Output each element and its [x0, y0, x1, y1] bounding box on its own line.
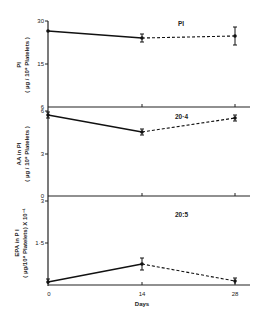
panel-epa-ylabel-2: ( µg/10⁹ Platelets) X 10⁻¹	[22, 208, 28, 277]
panel-pi-dashed-line	[142, 36, 235, 38]
panel-aa-ytick-top: 6	[41, 108, 45, 114]
panel-pi-title: PI	[178, 20, 184, 27]
panel-pi-ytick-mid: 15	[37, 61, 44, 67]
panel-aa: 6 3 0 20·4 AA in PI ( µg / 10⁹ Platelets…	[16, 108, 250, 199]
panel-epa-title: 20:5	[175, 211, 188, 218]
panel-aa-ytick-mid: 3	[41, 151, 45, 157]
x-axis-label: Days	[135, 301, 150, 307]
x-tick-14: 14	[139, 291, 146, 297]
panel-aa-solid-line	[48, 115, 142, 132]
panel-aa-dashed-line	[142, 118, 235, 132]
panel-epa-ytick-bot: 0	[47, 291, 51, 297]
panel-pi-ytick-top: 30	[37, 18, 44, 24]
panel-aa-ylabel-1: AA in PI	[16, 142, 22, 165]
panel-epa-solid-line	[48, 264, 142, 282]
panel-epa-ytick-mid: 1·5	[35, 240, 44, 246]
panel-pi-ylabel-1: PI	[16, 62, 22, 68]
panel-epa-dashed-line	[142, 264, 235, 281]
panel-epa-error-bars	[46, 258, 237, 284]
panel-epa-ylabel-1: EPA in P I	[14, 229, 20, 257]
panel-pi-solid-line	[48, 31, 142, 38]
panel-epa: 3 1·5 0 20:5 EPA in P I ( µg/10⁹ Platele…	[14, 198, 250, 307]
chart-figure: 30 15 6 PI PI ( µg / 10⁹ Platelets ) 6 3…	[0, 0, 264, 324]
panel-epa-ytick-top: 3	[41, 198, 45, 204]
panel-pi: 30 15 6 PI PI ( µg / 10⁹ Platelets )	[16, 18, 250, 110]
panel-aa-title: 20·4	[175, 113, 188, 120]
panel-aa-ylabel-2: ( µg / 10⁹ Platelets )	[24, 126, 30, 181]
x-tick-28: 28	[232, 291, 239, 297]
panel-pi-ylabel-2: ( µg / 10⁹ Platelets )	[24, 37, 30, 92]
